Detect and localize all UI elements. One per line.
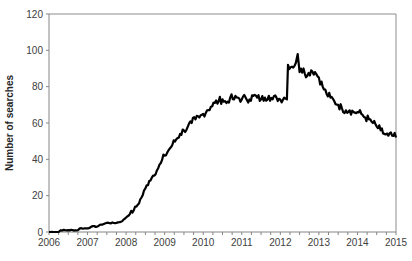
x-tick-label: 2010 [192, 237, 215, 248]
x-tick-label: 2012 [269, 237, 292, 248]
y-tick-label: 80 [32, 81, 44, 92]
y-tick-label: 60 [32, 118, 44, 129]
y-tick-label: 0 [37, 227, 43, 238]
y-tick-label: 100 [26, 45, 43, 56]
y-axis-title: Number of searches [4, 74, 15, 171]
y-tick-label: 20 [32, 190, 44, 201]
y-tick-label: 40 [32, 154, 44, 165]
y-tick-label: 120 [26, 9, 43, 20]
x-tick-label: 2015 [385, 237, 408, 248]
x-tick-label: 2011 [231, 237, 253, 248]
x-tick-label: 2006 [38, 237, 61, 248]
line-chart: 020406080100120 200620072008200920102011… [0, 0, 412, 261]
chart-background [0, 0, 412, 261]
x-tick-label: 2009 [154, 237, 177, 248]
x-tick-label: 2013 [308, 237, 331, 248]
x-tick-label: 2014 [346, 237, 369, 248]
x-tick-label: 2007 [76, 237, 99, 248]
x-tick-label: 2008 [115, 237, 138, 248]
